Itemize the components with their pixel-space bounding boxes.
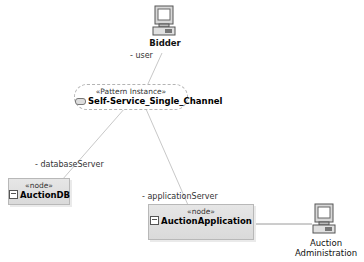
role-application-server: - applicationServer (142, 192, 218, 201)
node-icon (150, 216, 159, 225)
link-pattern-auctiondb (62, 108, 125, 180)
pattern-instance-icon (75, 98, 86, 105)
role-database-server: - databaseServer (35, 160, 104, 169)
actor-name-line2: Administration (294, 248, 358, 258)
pattern-name: Self-Service_Single_Channel (88, 96, 222, 106)
node-auctiondb[interactable]: «node» AuctionDB (8, 178, 70, 205)
node-name: AuctionApplication (161, 216, 252, 226)
role-user: - user (130, 51, 153, 60)
bidder-label: Bidder (147, 38, 183, 48)
pattern-stereotype: «Pattern Instance» (75, 87, 187, 96)
node-auctionapplication[interactable]: «node» AuctionApplication (148, 204, 254, 240)
pattern-instance[interactable]: «Pattern Instance» Self-Service_Single_C… (74, 84, 188, 110)
computer-icon (152, 5, 176, 39)
actor-name-line1: Auction (294, 238, 358, 248)
auction-administration-actor[interactable] (312, 203, 336, 237)
auction-administration-label: Auction Administration (294, 238, 358, 258)
computer-icon (312, 203, 336, 237)
link-pattern-auctionapp (146, 109, 188, 205)
node-name: AuctionDB (20, 190, 70, 200)
node-icon (9, 190, 18, 199)
bidder-actor[interactable] (152, 5, 176, 39)
node-stereotype: «node» (9, 181, 69, 190)
node-stereotype: «node» (149, 207, 253, 216)
